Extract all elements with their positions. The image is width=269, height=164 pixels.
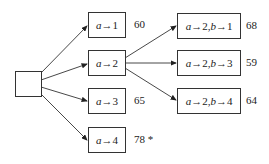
node-a4: a →4 [88, 127, 126, 153]
node-a2-b3: a →2, b →3 [177, 50, 241, 76]
edge-a2-b4 [125, 68, 176, 100]
node-a1: a →1 [88, 12, 126, 38]
score-a2-b4: 64 [246, 94, 257, 106]
node-a2-b4: a →2, b →4 [177, 88, 241, 114]
score-a3: 65 [134, 94, 145, 106]
score-a2-b3: 59 [246, 56, 257, 68]
node-a2-b1: a →2, b →1 [177, 13, 241, 39]
node-a3: a →3 [88, 88, 126, 114]
node-a2: a →2 [88, 50, 126, 76]
score-a4: 78 * [134, 133, 153, 145]
edge-root-a4 [41, 94, 87, 140]
edge-a2-b1 [125, 26, 176, 58]
score-a2-b1: 68 [246, 19, 257, 31]
edge-root-a3 [41, 87, 87, 101]
root-node [15, 71, 42, 97]
score-a1: 60 [134, 18, 145, 30]
